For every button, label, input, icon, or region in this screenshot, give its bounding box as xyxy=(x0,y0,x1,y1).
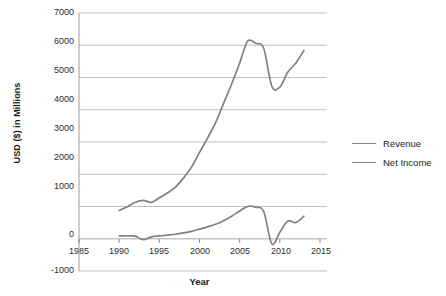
gridlines xyxy=(79,13,327,271)
line-chart: USD ($) in Millions 7000 6000 5000 4000 … xyxy=(0,0,446,296)
legend-label-revenue: Revenue xyxy=(383,138,421,149)
series-line-revenue xyxy=(119,40,304,211)
legend-item-net-income[interactable]: Net Income xyxy=(352,153,444,172)
legend-line-icon-revenue xyxy=(352,143,376,144)
legend-item-revenue[interactable]: Revenue xyxy=(352,134,444,153)
legend-line-icon-net-income xyxy=(352,162,376,163)
legend-label-net-income: Net Income xyxy=(383,157,432,168)
legend: Revenue Net Income xyxy=(352,134,444,172)
x-tick-marks xyxy=(79,239,327,243)
